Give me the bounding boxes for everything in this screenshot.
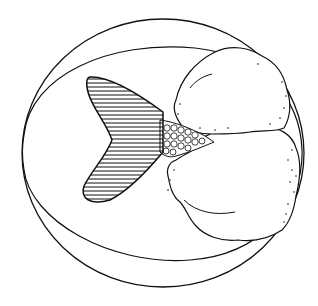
upper-cloud: [174, 48, 289, 134]
fish-tail: [80, 77, 170, 202]
illustration: [0, 0, 318, 306]
